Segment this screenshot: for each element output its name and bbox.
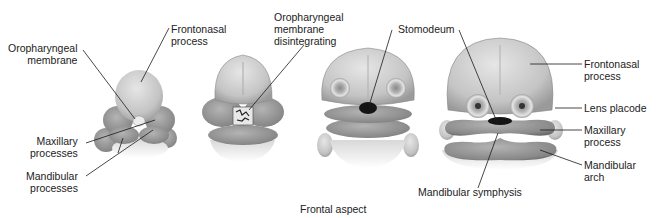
- stage-4-embryo: [439, 38, 563, 170]
- label-mandibular-processes: Mandibular processes: [26, 170, 78, 194]
- label-lens-placode: Lens placode: [584, 102, 646, 114]
- label-mandibular-symphysis: Mandibular symphysis: [418, 186, 522, 198]
- embryo-face-development-diagram: Oropharyngeal membrane Frontonasal proce…: [0, 0, 657, 218]
- label-maxillary-process: Maxillary process: [584, 124, 625, 148]
- figure-caption: Frontal aspect: [300, 203, 367, 215]
- label-stomodeum: Stomodeum: [398, 23, 455, 35]
- label-frontonasal-process-stage1: Frontonasal process: [171, 23, 226, 47]
- label-oropharyngeal-membrane-disintegrating: Oropharyngeal membrane disintegrating: [274, 11, 343, 47]
- label-maxillary-processes: Maxillary processes: [30, 135, 78, 159]
- stage-1-embryo: [94, 70, 177, 158]
- label-mandibular-arch: Mandibular arch: [584, 159, 636, 183]
- label-frontonasal-process-stage4: Frontonasal process: [584, 58, 639, 82]
- stage-3-embryo: [317, 48, 419, 168]
- label-oropharyngeal-membrane: Oropharyngeal membrane: [8, 42, 77, 66]
- stage-2-embryo: [202, 55, 284, 162]
